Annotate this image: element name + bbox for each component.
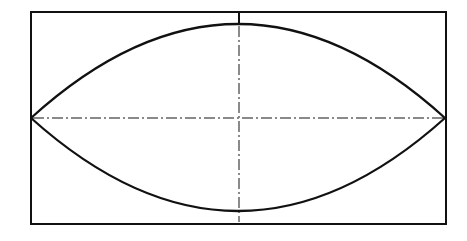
lens-drawing (0, 0, 467, 241)
diagram-canvas (0, 0, 467, 241)
